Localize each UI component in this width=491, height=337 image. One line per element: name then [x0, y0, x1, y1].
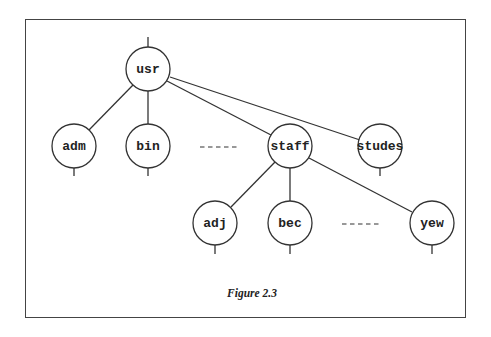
- node-yew-label: yew: [420, 216, 444, 231]
- figure-caption: Figure 2.3: [226, 287, 277, 300]
- node-bec-label: bec: [278, 216, 302, 231]
- node-adm-label: adm: [62, 139, 86, 154]
- node-staff-label: staff: [270, 139, 309, 154]
- edge-usr-studes: [170, 77, 360, 140]
- edge-staff-yew: [309, 158, 412, 212]
- directory-tree-diagram: usr adm bin staff studes adj bec yew Fig…: [0, 0, 491, 337]
- edge-usr-adm: [89, 85, 133, 130]
- node-usr-label: usr: [136, 62, 159, 77]
- edge-staff-adj: [231, 162, 275, 207]
- node-studes-label: studes: [357, 139, 404, 154]
- node-bin-label: bin: [136, 139, 160, 154]
- edge-usr-staff: [167, 81, 271, 135]
- node-adj-label: adj: [203, 216, 226, 231]
